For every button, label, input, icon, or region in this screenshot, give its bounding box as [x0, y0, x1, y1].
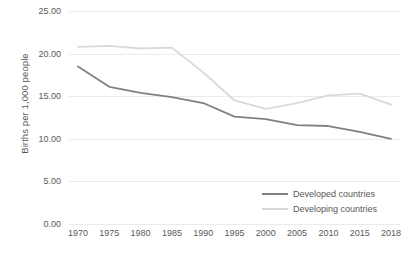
line-chart: Births per 1,000 people 0.005.0010.0015.… — [0, 0, 409, 256]
y-tick-label: 10.00 — [0, 134, 66, 144]
y-tick-label: 5.00 — [0, 176, 66, 186]
x-tick-label: 2018 — [381, 228, 401, 238]
gridline — [69, 224, 400, 225]
legend-line-swatch — [262, 193, 288, 195]
legend-label: Developed countries — [293, 189, 375, 199]
x-tick-label: 1980 — [131, 228, 151, 238]
x-tick-label: 2000 — [256, 228, 276, 238]
x-tick-label: 1985 — [162, 228, 182, 238]
x-tick-label: 2005 — [287, 228, 307, 238]
y-tick-label: 20.00 — [0, 49, 66, 59]
legend-item[interactable]: Developing countries — [262, 204, 377, 214]
x-tick-label: 1990 — [193, 228, 213, 238]
legend-item[interactable]: Developed countries — [262, 189, 377, 199]
x-tick-label: 2015 — [350, 228, 370, 238]
x-tick-label: 2010 — [318, 228, 338, 238]
legend-label: Developing countries — [293, 204, 377, 214]
x-tick-label: 1995 — [224, 228, 244, 238]
x-tick-label: 1975 — [99, 228, 119, 238]
legend-line-swatch — [262, 208, 288, 210]
y-axis-tick-labels: 0.005.0010.0015.0020.0025.00 — [0, 0, 66, 256]
y-tick-label: 25.00 — [0, 6, 66, 16]
series-line — [78, 66, 391, 138]
y-tick-label: 15.00 — [0, 91, 66, 101]
x-axis-tick-labels: 1970197519801985199019952000200520102015… — [69, 228, 400, 248]
x-tick-label: 1970 — [68, 228, 88, 238]
y-tick-label: 0.00 — [0, 219, 66, 229]
series-line — [78, 46, 391, 109]
chart-legend: Developed countriesDeveloping countries — [262, 189, 377, 214]
